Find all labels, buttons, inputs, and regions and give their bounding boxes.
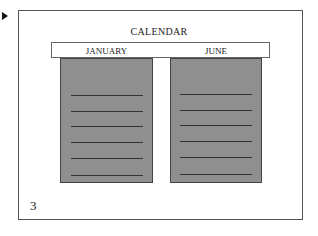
june-line <box>180 141 252 142</box>
june-line <box>180 174 252 175</box>
january-line <box>71 111 143 112</box>
january-line <box>71 126 143 127</box>
column-label-june: JUNE <box>170 46 262 56</box>
column-label-january: JANUARY <box>60 46 153 56</box>
january-line <box>71 95 143 96</box>
page-number: 3 <box>30 198 37 214</box>
june-line <box>180 110 252 111</box>
january-line <box>71 158 143 159</box>
play-arrow-icon[interactable] <box>2 12 8 20</box>
slide-title: CALENDAR <box>0 26 318 37</box>
january-panel <box>60 58 153 183</box>
january-line <box>71 175 143 176</box>
june-line <box>180 125 252 126</box>
june-panel <box>170 58 262 183</box>
june-line <box>180 94 252 95</box>
january-line <box>71 142 143 143</box>
june-line <box>180 157 252 158</box>
